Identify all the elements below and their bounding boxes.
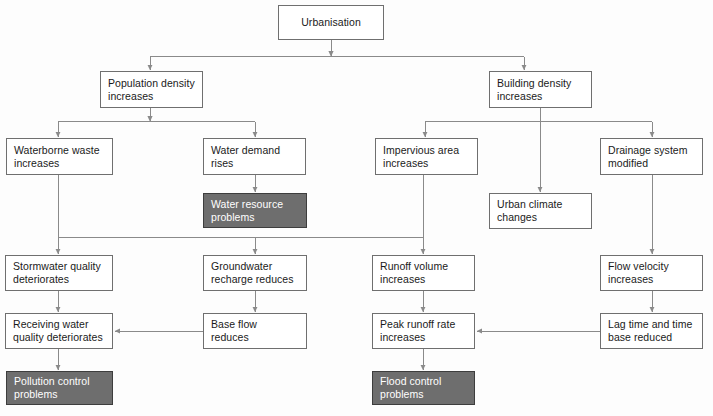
node-label: Pollution control problems [7, 375, 112, 400]
node-receiving-water[interactable]: Receiving water quality deteriorates [5, 313, 113, 349]
node-lag-time[interactable]: Lag time and time base reduced [600, 313, 703, 349]
node-pollution-control-problems[interactable]: Pollution control problems [6, 371, 113, 405]
node-label: Peak runoff rate increases [373, 318, 474, 343]
node-label: Water resource problems [204, 198, 306, 223]
flowchart-canvas: Urbanisation Population density increase… [0, 0, 713, 416]
node-label: Base flow reduces [204, 318, 306, 343]
node-base-flow[interactable]: Base flow reduces [203, 313, 307, 349]
node-flood-control-problems[interactable]: Flood control problems [372, 371, 475, 405]
edge-layer [0, 0, 713, 416]
node-label: Stormwater quality deteriorates [6, 260, 112, 285]
node-stormwater-quality[interactable]: Stormwater quality deteriorates [5, 255, 113, 291]
node-label: Urbanisation [279, 16, 383, 29]
node-label: Groundwater recharge reduces [204, 260, 306, 285]
node-label: Flood control problems [373, 375, 474, 400]
node-peak-runoff-rate[interactable]: Peak runoff rate increases [372, 313, 475, 349]
node-label: Runoff volume increases [373, 260, 474, 285]
node-waterborne-waste[interactable]: Waterborne waste increases [6, 138, 113, 175]
node-runoff-volume[interactable]: Runoff volume increases [372, 255, 475, 291]
node-urbanisation[interactable]: Urbanisation [278, 5, 384, 40]
node-label: Water demand rises [204, 144, 305, 169]
node-water-resource-problems[interactable]: Water resource problems [203, 193, 307, 228]
node-drainage-system[interactable]: Drainage system modified [600, 138, 703, 175]
node-groundwater-recharge[interactable]: Groundwater recharge reduces [203, 255, 307, 291]
node-label: Population density increases [101, 77, 202, 102]
node-building-density[interactable]: Building density increases [489, 71, 592, 108]
node-impervious-area[interactable]: Impervious area increases [375, 138, 478, 175]
node-label: Lag time and time base reduced [601, 318, 702, 343]
node-label: Receiving water quality deteriorates [6, 318, 112, 343]
node-label: Building density increases [490, 77, 591, 102]
node-flow-velocity[interactable]: Flow velocity increases [600, 255, 703, 291]
node-label: Flow velocity increases [601, 260, 702, 285]
node-population-density[interactable]: Population density increases [100, 71, 203, 108]
node-label: Drainage system modified [601, 144, 702, 169]
node-label: Impervious area increases [376, 144, 477, 169]
node-water-demand[interactable]: Water demand rises [203, 138, 306, 175]
node-label: Waterborne waste increases [7, 144, 112, 169]
node-urban-climate-changes[interactable]: Urban climate changes [489, 193, 592, 229]
node-label: Urban climate changes [490, 198, 591, 223]
